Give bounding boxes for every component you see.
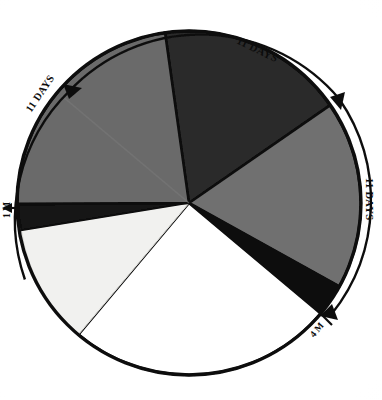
left-small-label: 1 M	[2, 202, 12, 218]
pie-chart-canvas: 11 DAYS 11 DAYS 11 DAYS 1 M 4 M	[0, 0, 382, 400]
right-arc-label: 11 DAYS	[364, 178, 375, 220]
right-arc-label-group: 11 DAYS	[364, 178, 375, 220]
pie-chart-figure: 11 DAYS 11 DAYS 11 DAYS 1 M 4 M	[0, 0, 382, 400]
left-small-label-group: 1 M	[2, 202, 12, 218]
